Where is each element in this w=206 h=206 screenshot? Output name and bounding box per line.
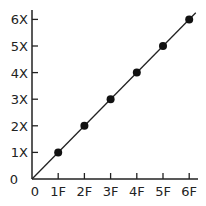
x-tick-label: 6F — [181, 184, 197, 199]
y-tick-label: 2X — [11, 119, 28, 134]
y-tick-label: 5X — [11, 39, 28, 54]
x-tick-label: 2F — [77, 184, 93, 199]
y-tick-label: 1X — [11, 145, 28, 160]
chart: 01X2X3X4X5X6X 01F2F3F4F5F6F — [0, 0, 206, 206]
data-point — [159, 42, 167, 50]
data-point — [107, 95, 115, 103]
x-tick-label: 1F — [50, 184, 66, 199]
y-tick-label: 0 — [10, 172, 18, 187]
y-tick-label: 3X — [11, 92, 28, 107]
x-ticks: 01F2F3F4F5F6F — [31, 173, 197, 199]
data-point — [185, 15, 193, 23]
y-tick-label: 4X — [11, 66, 28, 81]
data-point — [133, 69, 141, 77]
y-tick-label: 6X — [11, 12, 28, 27]
x-tick-label: 3F — [103, 184, 119, 199]
x-tick-label: 4F — [129, 184, 145, 199]
data-point — [54, 148, 62, 156]
x-tick-label: 0 — [31, 184, 39, 199]
x-tick-label: 5F — [155, 184, 171, 199]
y-ticks: 01X2X3X4X5X6X — [10, 12, 38, 187]
data-point — [80, 122, 88, 130]
